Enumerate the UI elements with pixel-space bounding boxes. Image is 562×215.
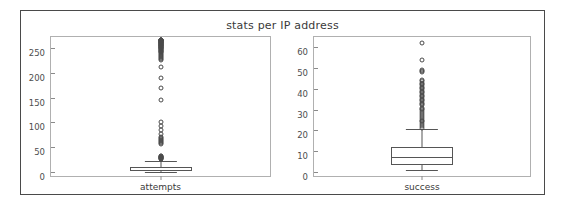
whisker-upper — [422, 129, 423, 147]
cap-lower — [144, 172, 176, 173]
outlier-marker — [158, 153, 163, 158]
outlier-marker — [158, 64, 163, 69]
median-line — [130, 170, 192, 171]
box-iqr — [391, 147, 453, 165]
subplot-attempts: 050100150200250attempts — [50, 36, 271, 177]
outlier-marker — [158, 75, 163, 80]
x-axis-tick-attempts — [160, 176, 161, 180]
outlier-marker — [158, 98, 163, 103]
cap-lower — [406, 170, 438, 171]
median-line — [391, 157, 453, 158]
outlier-marker — [158, 37, 163, 42]
outlier-marker — [420, 57, 425, 62]
x-axis-label-attempts: attempts — [140, 182, 181, 192]
outlier-marker — [420, 41, 425, 46]
chart-title: stats per IP address — [21, 19, 544, 32]
outlier-marker — [158, 85, 163, 90]
outlier-marker — [420, 77, 425, 82]
x-axis-tick-success — [422, 176, 423, 180]
x-axis-label-success: success — [404, 182, 439, 192]
outlier-marker — [158, 120, 163, 125]
subplot-success: 0102030405060success — [313, 36, 531, 177]
chart-figure: stats per IP address 050100150200250atte… — [0, 0, 562, 215]
outlier-marker — [420, 68, 425, 73]
outlier-marker — [158, 48, 163, 53]
